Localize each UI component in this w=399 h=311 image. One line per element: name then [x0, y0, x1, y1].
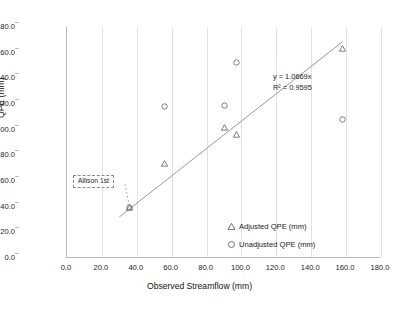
y-tick-mark: [15, 150, 19, 151]
y-tick-mark: [15, 73, 19, 74]
r-squared-line: R² = 0.9595: [273, 83, 312, 94]
legend-label-adjusted: Adjusted QPE (mm): [239, 222, 307, 231]
y-tick-mark: [15, 125, 19, 126]
x-axis-title: Observed Streamflow (mm): [0, 281, 399, 291]
scatter-chart-figure: 0.020.040.060.080.0100.0120.0140.0160.01…: [0, 0, 399, 311]
y-tick-label: 0.0: [0, 254, 15, 262]
y-tick-label: 20.0: [0, 228, 15, 236]
y-tick-label: 60.0: [0, 177, 15, 185]
y-tick-label: 100.0: [0, 126, 15, 134]
y-tick-label: 40.0: [0, 203, 15, 211]
y-tick-label: 160.0: [0, 49, 15, 57]
equation-line: y = 1.0669x: [273, 72, 312, 83]
chart-legend: Adjusted QPE (mm) Unadjusted QPE (mm): [227, 222, 315, 258]
plot-area: Allison 1st y = 1.0669x R² = 0.9595 Adju…: [66, 27, 380, 258]
trendline-equation: y = 1.0669x R² = 0.9595: [273, 72, 312, 93]
y-tick-mark: [15, 48, 19, 49]
circle-marker-icon: [227, 240, 236, 249]
gridline-vertical: [381, 27, 382, 257]
legend-item-unadjusted: Unadjusted QPE (mm): [227, 240, 315, 249]
triangle-marker-icon: [227, 222, 236, 231]
y-tick-mark: [15, 253, 19, 254]
annotation-allison-1st: Allison 1st: [73, 175, 114, 188]
y-axis-title: QPE (mm): [0, 77, 6, 118]
y-tick-mark: [15, 176, 19, 177]
caption-partial: [4, 293, 184, 302]
y-tick-mark: [15, 227, 19, 228]
callout-connector: [67, 27, 381, 258]
legend-item-adjusted: Adjusted QPE (mm): [227, 222, 315, 231]
x-tick-label: 180.0: [350, 264, 399, 272]
y-tick-label: 180.0: [0, 23, 15, 31]
y-tick-mark: [15, 99, 19, 100]
legend-label-unadjusted: Unadjusted QPE (mm): [239, 240, 315, 249]
y-tick-mark: [15, 202, 19, 203]
y-tick-mark: [15, 22, 19, 23]
y-tick-label: 80.0: [0, 151, 15, 159]
